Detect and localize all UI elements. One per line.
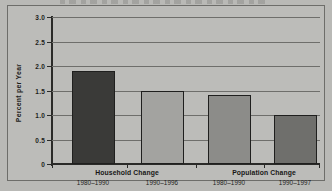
x-tick-mark xyxy=(127,164,128,168)
y-tick-mark xyxy=(47,91,52,92)
x-tick-mark xyxy=(52,164,53,168)
x-axis-group-label: Household Change xyxy=(95,169,159,176)
chart-frame-border: Percent per Year 00.51.01.52.02.53.0 Hou… xyxy=(7,5,325,181)
plot-area: 00.51.01.52.02.53.0 xyxy=(52,17,320,164)
y-tick-label: 1.0 xyxy=(35,112,45,119)
y-tick-label: 3.0 xyxy=(35,14,45,21)
y-tick-mark xyxy=(47,140,52,141)
x-axis-period-label: 1990–1996 xyxy=(146,179,178,186)
y-tick-mark xyxy=(47,17,52,18)
gridline xyxy=(52,66,320,67)
y-tick-label: 2.0 xyxy=(35,63,45,70)
y-tick-label: 2.5 xyxy=(35,38,45,45)
y-axis-title: Percent per Year xyxy=(15,64,22,122)
x-axis-period-label: 1980–1990 xyxy=(213,179,245,186)
bar xyxy=(208,95,251,164)
bar xyxy=(72,71,115,164)
bar xyxy=(274,115,317,164)
x-tick-mark xyxy=(264,164,265,168)
x-tick-mark xyxy=(196,164,197,168)
y-tick-mark xyxy=(47,115,52,116)
y-tick-mark xyxy=(47,66,52,67)
bar xyxy=(141,91,184,165)
chart-figure: Percent per Year 00.51.01.52.02.53.0 Hou… xyxy=(0,0,332,191)
gridline xyxy=(52,17,320,18)
x-tick-mark xyxy=(319,164,320,168)
y-tick-mark xyxy=(47,42,52,43)
x-axis-group-label: Population Change xyxy=(232,169,296,176)
x-axis-period-label: 1990–1997 xyxy=(279,179,311,186)
x-axis-period-label: 1980–1990 xyxy=(77,179,109,186)
gridline xyxy=(52,42,320,43)
y-tick-label: 0.5 xyxy=(35,136,45,143)
y-tick-label: 0 xyxy=(41,161,45,168)
y-tick-label: 1.5 xyxy=(35,87,45,94)
scan-cutoff-text-artifact xyxy=(60,0,270,4)
